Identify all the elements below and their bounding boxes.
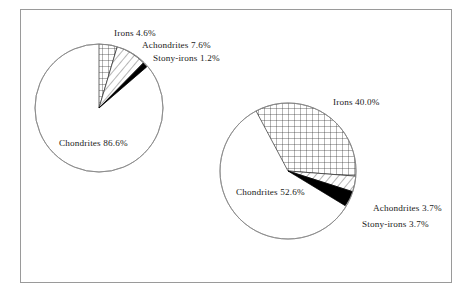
label-right-stony-irons: Stony-irons 3.7% bbox=[362, 220, 429, 229]
label-right-chondrites: Chondrites 52.6% bbox=[236, 188, 305, 197]
label-right-irons: Irons 40.0% bbox=[333, 98, 380, 107]
pie-charts-svg bbox=[0, 0, 471, 297]
label-left-achondrites: Achondrites 7.6% bbox=[142, 41, 211, 50]
pie-right bbox=[220, 103, 356, 239]
label-right-achondrites: Achondrites 3.7% bbox=[373, 204, 442, 213]
figure-canvas: Irons 4.6% Achondrites 7.6% Stony-irons … bbox=[0, 0, 471, 297]
label-left-irons: Irons 4.6% bbox=[114, 29, 156, 38]
pie-left bbox=[35, 44, 163, 172]
label-left-stony-irons: Stony-irons 1.2% bbox=[153, 54, 220, 63]
label-left-chondrites: Chondrites 86.6% bbox=[59, 139, 128, 148]
